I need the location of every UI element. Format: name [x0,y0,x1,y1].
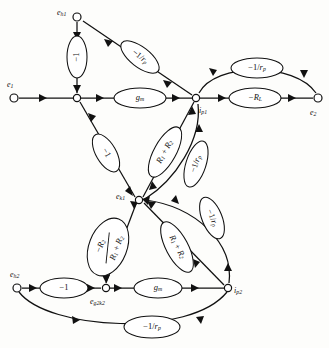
gain-ip1-ek1: −1/rp [179,138,213,190]
node-eh2[interactable] [13,284,21,292]
node-label-eh1: eh1 [57,8,66,18]
node-e2[interactable] [314,94,322,102]
gain-ek1-ip1: R1 + R2 [142,122,188,182]
gain-ek1-ip2: R1 + R2 [154,217,200,277]
node-label-eh2: eh2 [10,270,19,280]
gain-junction-ip1: gm [114,88,166,108]
gain-ip2-ek1: −1/rp [194,194,229,242]
gain-ip1-e2-arc: −1/rp [231,58,283,78]
node-e1[interactable] [10,94,18,102]
node-eg2k2[interactable] [102,284,109,291]
node-label-ek1: ek1 [116,192,125,202]
gain-eh1-ip1: −1/rp [116,35,165,79]
node-junction[interactable] [73,94,80,101]
gain-eh2-ip2-arc: −1/rp [124,316,180,338]
gain-ip1-e2: −RL [229,88,281,108]
edge-eh2-to-ip2-arc [19,292,227,324]
signal-flow-graph-figure: −1 −1/rp gm −1/rp −RL [0,0,329,348]
gain-ek1-eg2k2: −R2 R1 + R2 [80,212,137,282]
gain-label: −1 [71,52,81,61]
node-ip2[interactable] [224,284,231,291]
gain-eh1-junction: −1 [67,36,87,78]
node-label-e1: e1 [7,80,14,90]
node-label-ip1: ip1 [199,106,207,116]
gain-eg2k2-ip2: gm [134,278,182,298]
node-eh1[interactable] [73,13,81,21]
node-label-eg2k2: eg2k2 [90,297,105,307]
gain-label: −1 [59,282,68,292]
gain-eh2-eg2k2: −1 [40,278,88,298]
edge-e1-to-junction [19,94,73,102]
node-label-ip2: ip2 [234,286,242,296]
node-ip1[interactable] [192,94,199,101]
node-ek1[interactable] [135,196,142,203]
graph-canvas: −1 −1/rp gm −1/rp −RL [0,0,329,348]
node-label-e2: e2 [310,108,317,118]
